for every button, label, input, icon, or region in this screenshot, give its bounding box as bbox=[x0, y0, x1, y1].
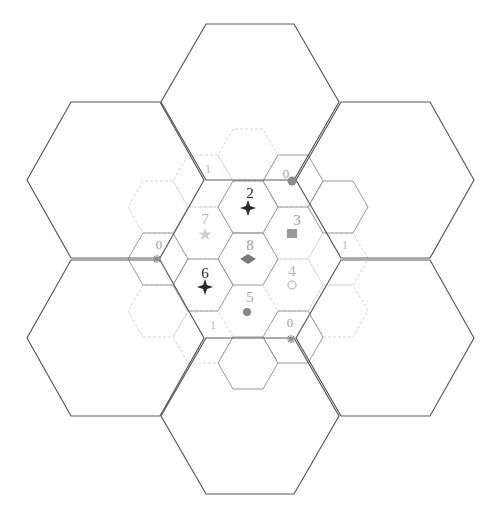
asterisk-icon bbox=[287, 335, 295, 343]
small-hex bbox=[308, 233, 368, 285]
outer-label: 0 bbox=[156, 237, 163, 252]
outer-label: 1 bbox=[210, 317, 217, 332]
outer-label: 0 bbox=[287, 315, 294, 330]
hex-grid-diagram: 2 3 4 5 6 7 8 1 0 0 1 1 0 bbox=[0, 0, 496, 522]
five-point-star-icon bbox=[199, 228, 212, 240]
cell-label-7: 7 bbox=[201, 211, 209, 227]
cell-label-6: 6 bbox=[201, 265, 209, 281]
cell-label-5: 5 bbox=[246, 289, 254, 305]
filled-circle-icon bbox=[243, 308, 251, 316]
small-hex bbox=[308, 285, 368, 337]
four-point-star-icon bbox=[197, 279, 213, 295]
grid-circle-icon bbox=[288, 281, 296, 289]
small-hex-right bbox=[308, 181, 368, 233]
large-hex-upper-left bbox=[27, 102, 204, 258]
outer-label: 1 bbox=[342, 237, 349, 252]
small-hex bbox=[218, 129, 278, 181]
large-hex-top bbox=[161, 24, 339, 180]
small-hex-bottom bbox=[218, 337, 278, 389]
markers bbox=[153, 177, 297, 344]
cell-label-3: 3 bbox=[293, 212, 301, 228]
cell-label-2: 2 bbox=[246, 185, 254, 201]
cell-label-8: 8 bbox=[246, 237, 254, 253]
junction-dot-icon bbox=[288, 177, 297, 186]
diamond-icon bbox=[240, 254, 256, 264]
checkered-square-icon bbox=[287, 229, 297, 238]
cell-labels: 2 3 4 5 6 7 8 bbox=[201, 185, 301, 305]
asterisk-icon bbox=[153, 255, 161, 263]
large-hex-lower-left bbox=[27, 260, 204, 416]
four-point-star-icon bbox=[240, 200, 256, 216]
outer-label: 1 bbox=[205, 161, 212, 176]
cell-label-4: 4 bbox=[288, 263, 296, 279]
large-hex-bottom bbox=[161, 338, 339, 494]
